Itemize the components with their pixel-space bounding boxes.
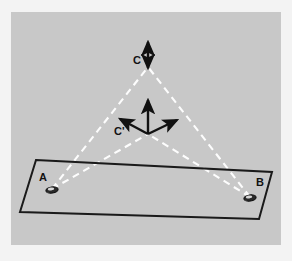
station-marker-a xyxy=(45,186,58,194)
sight-line-b-to-c xyxy=(148,67,250,197)
diagram-canvas xyxy=(0,0,292,261)
figure-root: C C' A B xyxy=(0,0,292,261)
point-label-c-prime: C' xyxy=(114,126,125,137)
sight-line-a-to-c xyxy=(52,67,148,189)
arrow-cluster-c-prime xyxy=(120,100,177,134)
point-label-a: A xyxy=(39,172,47,183)
point-label-c: C xyxy=(133,55,141,66)
point-label-b: B xyxy=(256,177,264,188)
arrow-c-prime-upper-right xyxy=(148,120,177,134)
